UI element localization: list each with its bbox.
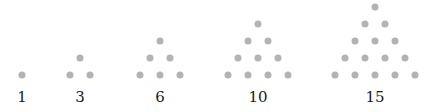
dot [67,71,74,78]
figure-label: 10 [248,88,267,106]
figure-label: 3 [75,88,85,106]
dot [245,37,252,44]
dot [19,71,26,78]
dot [342,54,349,61]
dot [177,71,184,78]
dot [275,54,282,61]
dot [255,54,262,61]
dot [265,37,272,44]
dot [285,71,292,78]
dot [372,4,379,11]
dot [265,71,272,78]
dot [87,71,94,78]
dot [157,71,164,78]
dot [332,71,339,78]
dot [245,71,252,78]
dot [352,71,359,78]
dot [362,54,369,61]
figure-label: 1 [17,88,27,106]
dot [167,54,174,61]
dot [157,37,164,44]
figure-label: 15 [365,88,384,106]
dot [235,54,242,61]
dot [147,54,154,61]
dot [412,71,419,78]
dot [382,21,389,28]
dot [382,54,389,61]
dot [392,37,399,44]
dot [225,71,232,78]
dot [137,71,144,78]
dot [77,54,84,61]
triangular-numbers-diagram: 1361015 [0,0,438,112]
figure-label: 6 [155,88,165,106]
dot [352,37,359,44]
dot [372,71,379,78]
dot [362,21,369,28]
dot [372,37,379,44]
dot [255,21,262,28]
dot [402,54,409,61]
dot [392,71,399,78]
